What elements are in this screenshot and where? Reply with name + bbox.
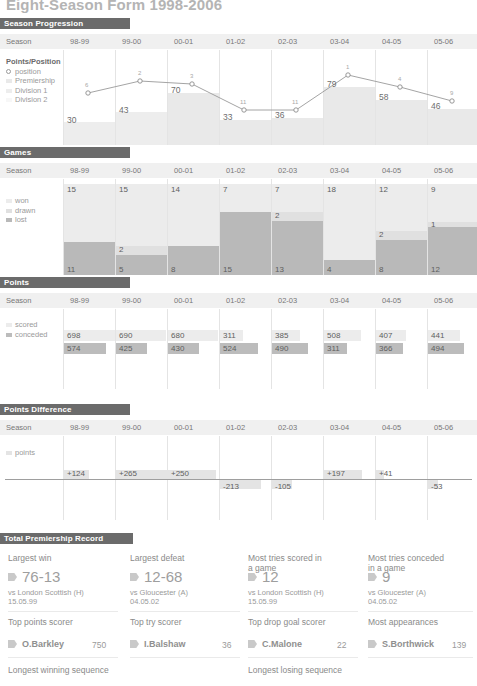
games-bar-won-01-02 <box>220 184 271 212</box>
games-won-value-98-99: 15 <box>67 185 76 194</box>
points-conceded-value-00-01: 430 <box>171 343 184 354</box>
arrow-icon <box>248 573 257 581</box>
season-label-04-05: 04-05 <box>382 293 401 308</box>
record-card-value-largest-win: 76-13 <box>22 568 60 585</box>
season-label-05-06: 05-06 <box>434 34 453 49</box>
record-card-sub-largest-win: vs London Scottish (H) 15.05.99 <box>8 588 84 606</box>
chart-points: 698 690 680 311 385 508 407 441 574 425 … <box>0 309 477 389</box>
divider <box>130 611 240 612</box>
games-lost-value-04-05: 8 <box>379 265 383 274</box>
games-bar-drawn-04-05 <box>376 231 427 240</box>
games-bar-lost-00-01 <box>168 246 219 275</box>
points-scored-value-00-01: 680 <box>171 330 184 341</box>
games-drawn-value-99-00: 2 <box>119 245 123 254</box>
arrow-icon <box>8 573 17 581</box>
season-label-98-99: 98-99 <box>70 293 89 308</box>
difference-value-99-00: +265 <box>119 469 137 478</box>
points-scored-value-03-04: 508 <box>327 330 340 341</box>
record-card-label-largest-defeat: Largest defeat <box>130 553 240 563</box>
games-lost-value-05-06: 12 <box>431 265 440 274</box>
section-header-points-difference: Points Difference <box>0 404 130 415</box>
games-won-value-04-05: 12 <box>379 185 388 194</box>
season-label-03-04: 03-04 <box>330 34 349 49</box>
points-scored-value-05-06: 441 <box>431 330 444 341</box>
games-bar-drawn-02-03 <box>272 212 323 221</box>
record-leader-name-top-drop-goal-scorer: C.Malone <box>262 639 302 649</box>
season-label-03-04: 03-04 <box>330 163 349 178</box>
games-lost-value-02-03: 13 <box>275 265 284 274</box>
points-scored-value-01-02: 311 <box>223 330 236 341</box>
position-value-00-01: 3 <box>190 73 193 79</box>
record-sequence-label-longest-losing: Longest losing sequence <box>248 665 342 675</box>
section-header-total-premiership-record: Total Premiership Record <box>0 533 133 544</box>
games-won-value-01-02: 7 <box>223 185 227 194</box>
record-card-label-largest-win: Largest win <box>8 553 118 563</box>
record-leader-value-top-drop-goal-scorer: 22 <box>337 640 346 650</box>
season-label-01-02: 01-02 <box>226 163 245 178</box>
games-lost-value-98-99: 11 <box>67 265 75 274</box>
record-card-value-largest-defeat: 12-68 <box>144 568 182 585</box>
column-separator <box>271 436 272 520</box>
games-bar-lost-99-00 <box>116 255 167 275</box>
games-won-value-00-01: 14 <box>171 185 180 194</box>
games-lost-value-00-01: 8 <box>171 265 175 274</box>
points-scored-value-02-03: 385 <box>275 330 288 341</box>
points-conceded-value-03-04: 311 <box>327 343 340 354</box>
season-label-02-03: 02-03 <box>278 293 297 308</box>
position-value-05-06: 9 <box>450 90 453 96</box>
record-leader-label-top-try-scorer: Top try scorer <box>130 617 182 627</box>
difference-value-03-04: +197 <box>327 469 345 478</box>
season-label-02-03: 02-03 <box>278 34 297 49</box>
season-label-04-05: 04-05 <box>382 34 401 49</box>
points-conceded-value-02-03: 490 <box>275 343 288 354</box>
season-label-00-01: 00-01 <box>174 293 193 308</box>
season-label-01-02: 01-02 <box>226 293 245 308</box>
progression-value-05-06: 46 <box>431 101 440 111</box>
position-value-98-99: 6 <box>85 82 88 88</box>
record-leader-name-most-appearances: S.Borthwick <box>382 639 434 649</box>
divider <box>368 657 473 658</box>
section-header-points: Points <box>0 277 130 288</box>
games-bar-lost-03-04 <box>324 260 375 275</box>
games-lost-value-03-04: 4 <box>327 265 331 274</box>
season-header-points: Season 98-99 99-00 00-01 01-02 02-03 03-… <box>0 293 477 308</box>
season-label-00-01: 00-01 <box>174 163 193 178</box>
games-bar-won-02-03 <box>272 184 323 212</box>
position-value-04-05: 4 <box>398 76 401 82</box>
arrow-icon <box>368 573 377 581</box>
record-leader-label-most-appearances: Most appearances <box>368 617 438 627</box>
games-won-value-05-06: 9 <box>431 185 435 194</box>
season-label-02-03: 02-03 <box>278 163 297 178</box>
arrow-icon <box>130 640 139 648</box>
season-label-05-06: 05-06 <box>434 293 453 308</box>
progression-value-02-03: 36 <box>275 110 284 120</box>
season-label-01-02: 01-02 <box>226 34 245 49</box>
games-won-value-99-00: 15 <box>119 185 128 194</box>
season-label-03-04: 03-04 <box>330 293 349 308</box>
record-card-sub-most-tries-scored: vs London Scottish (H) 15.05.99 <box>248 588 324 606</box>
season-row-label: Season <box>6 34 31 49</box>
season-label-98-99: 98-99 <box>70 420 89 435</box>
divider <box>8 611 118 612</box>
season-label-99-00: 99-00 <box>122 420 141 435</box>
record-leader-name-top-points-scorer: O.Barkley <box>22 639 64 649</box>
games-drawn-value-02-03: 2 <box>275 211 279 220</box>
season-label-98-99: 98-99 <box>70 34 89 49</box>
record-sequence-label-longest-winning: Longest winning sequence <box>8 665 109 675</box>
points-scored-value-98-99: 698 <box>67 330 80 341</box>
section-header-season-progression: Season Progression <box>0 18 130 29</box>
season-row-label: Season <box>6 420 31 435</box>
season-label-05-06: 05-06 <box>434 420 453 435</box>
games-lost-value-99-00: 5 <box>119 265 123 274</box>
season-label-99-00: 99-00 <box>122 293 141 308</box>
column-separator <box>427 436 428 520</box>
progression-value-04-05: 58 <box>379 92 388 102</box>
season-label-98-99: 98-99 <box>70 163 89 178</box>
arrow-icon <box>8 640 17 648</box>
zero-baseline <box>5 479 472 480</box>
progression-value-01-02: 33 <box>223 112 232 122</box>
position-value-99-00: 2 <box>138 70 141 76</box>
season-label-99-00: 99-00 <box>122 163 141 178</box>
position-value-01-02: 11 <box>240 99 246 105</box>
divider <box>248 611 358 612</box>
